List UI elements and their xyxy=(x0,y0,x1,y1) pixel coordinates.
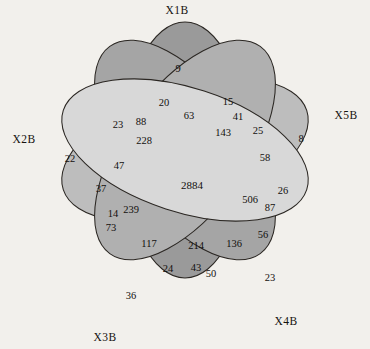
region-count-x1b-x5b-9: 63 xyxy=(184,110,195,121)
region-count-x1b-x5b-6: 15 xyxy=(223,96,234,107)
region-count-x1b-0: 9 xyxy=(175,63,180,74)
region-count-x2b-x3b-15: 47 xyxy=(114,160,125,171)
region-count-x1b-x4b-x5b-13: 143 xyxy=(215,127,231,138)
region-count-x3b-x4b-x5b-26: 136 xyxy=(226,238,242,249)
region-count-x1b-x2b-x3b-8: 88 xyxy=(136,116,147,127)
set-label-x2b: X2B xyxy=(13,133,36,145)
region-count-x3b-x4b-29: 43 xyxy=(191,262,202,273)
region-count-x1b-x2b-5: 20 xyxy=(159,97,170,108)
region-count-x2b-x3b-x4b-24: 117 xyxy=(141,238,156,249)
region-count-x4b-x5b-14: 58 xyxy=(260,152,271,163)
region-count-x2b-x3b-22: 239 xyxy=(123,204,139,215)
venn-diagram-figure: X1BX2BX3BX4BX5B 922362382015238863412522… xyxy=(0,0,370,349)
region-count-x2b-x3b-23: 73 xyxy=(106,222,117,233)
region-count-x3b-28: 24 xyxy=(163,263,174,274)
venn-diagram-canvas: X1BX2BX3BX4BX5B 922362382015238863412522… xyxy=(0,0,370,349)
region-count-x4b-3: 23 xyxy=(265,272,276,283)
region-count-x4b-x5b-27: 56 xyxy=(258,229,269,240)
region-count-x3b-2: 36 xyxy=(126,290,137,301)
set-label-x3b: X3B xyxy=(94,331,117,343)
region-count-x2b-16: 37 xyxy=(96,183,107,194)
region-count-x1b-x2b-x3b-x4b-25: 214 xyxy=(188,240,205,251)
region-count-x5b-x4b-11: 25 xyxy=(253,125,264,136)
set-label-x5b: X5B xyxy=(335,109,358,121)
region-count-x5b-4: 8 xyxy=(298,133,303,144)
region-count-x1b-x2b-x3b-x4b-x5b-17: 2884 xyxy=(181,179,204,191)
region-count-x3b-x4b-30: 50 xyxy=(206,268,217,279)
region-count-x2b-x1b-7: 23 xyxy=(113,119,124,130)
region-count-x4b-x5b-20: 87 xyxy=(265,202,276,213)
region-count-x1b-x4b-x5b-10: 41 xyxy=(233,111,244,122)
region-count-x5b-19: 26 xyxy=(278,185,289,196)
region-count-x1b-x4b-x5b-18: 506 xyxy=(242,194,258,205)
region-count-x1b-x2b-x3b-12: 228 xyxy=(136,135,152,146)
set-label-x4b: X4B xyxy=(275,315,298,327)
set-label-x1b: X1B xyxy=(166,4,189,16)
region-count-x2b-x3b-21: 14 xyxy=(108,208,119,219)
region-count-x2b-1: 22 xyxy=(65,153,76,164)
